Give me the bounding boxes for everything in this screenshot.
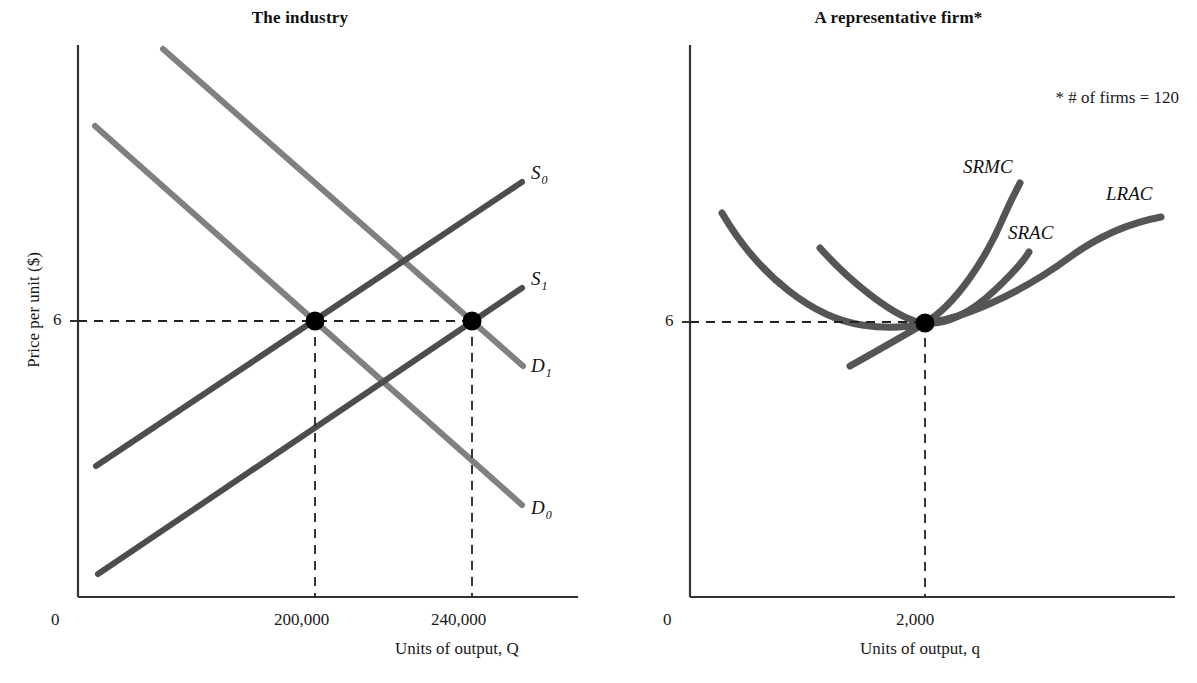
- industry-plot: [0, 0, 600, 683]
- curve-label-s1: S1: [531, 268, 548, 294]
- curve-label-s0-subscript: 0: [541, 173, 548, 187]
- firm-equilibrium-dot: [916, 314, 935, 333]
- curve-label-d0-subscript: 0: [545, 508, 552, 522]
- curve-label-s1-subscript: 1: [541, 279, 548, 293]
- curve-label-d1-subscript: 1: [545, 366, 552, 380]
- curve-label-srac: SRAC: [1008, 222, 1053, 244]
- firm-footnote: * # of firms = 120: [1056, 88, 1179, 108]
- curve-label-d0-base: D: [531, 497, 545, 518]
- equilibrium-dot-initial: [306, 312, 325, 331]
- industry-x-axis-label: Units of output, Q: [395, 639, 519, 659]
- firm-y-tick-label-6: 6: [665, 311, 674, 331]
- firm-x-axis-label: Units of output, q: [860, 639, 980, 659]
- firm-origin-label: 0: [663, 610, 672, 630]
- curve-s1: [98, 288, 522, 574]
- economics-figure: The industry A representative firm* Pric…: [0, 0, 1197, 683]
- industry-x-tick-label-240000: 240,000: [431, 610, 486, 630]
- curve-label-d0: D0: [531, 497, 552, 523]
- equilibrium-dot-new: [463, 312, 482, 331]
- industry-y-tick-label-6: 6: [53, 310, 62, 330]
- curve-srac: [820, 248, 1029, 323]
- curve-label-lrac: LRAC: [1106, 183, 1152, 205]
- curve-label-d1: D1: [531, 355, 552, 381]
- curve-label-srmc: SRMC: [963, 156, 1013, 178]
- curve-label-s1-base: S: [531, 268, 541, 289]
- curve-label-s0: S0: [531, 162, 548, 188]
- curve-srmc: [850, 183, 1020, 366]
- industry-x-tick-label-200000: 200,000: [274, 610, 329, 630]
- curve-label-d1-base: D: [531, 355, 545, 376]
- industry-y-axis-label: Price per unit ($): [24, 230, 44, 390]
- firm-x-tick-label-2000: 2,000: [896, 610, 934, 630]
- curve-label-s0-base: S: [531, 162, 541, 183]
- industry-origin-label: 0: [51, 610, 60, 630]
